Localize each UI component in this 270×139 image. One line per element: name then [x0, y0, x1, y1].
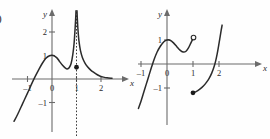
x-axis-label: x — [262, 63, 267, 73]
x-tick-label: 1 — [191, 68, 195, 78]
graph-panel-left: xy–1012–112 — [0, 0, 135, 139]
curve-branch-right — [193, 25, 222, 93]
curve-branch-right — [77, 11, 112, 78]
graph-panel-right: xy–1012–11 — [135, 0, 270, 139]
graph-left-svg: xy–1012–112 — [0, 0, 135, 139]
x-tick-label: 2 — [217, 68, 221, 78]
y-axis-arrow — [164, 9, 170, 16]
x-axis-label: x — [129, 78, 134, 88]
y-axis-label: y — [42, 9, 47, 19]
open-point — [191, 35, 196, 40]
x-tick-label: 0 — [50, 83, 54, 93]
x-axis-arrow — [255, 61, 262, 67]
math-figure: ) xy–1012–112 xy–1012–11 — [0, 0, 270, 139]
x-axis-arrow — [122, 76, 129, 82]
y-axis-label: y — [157, 9, 162, 19]
y-tick-label: 2 — [43, 27, 47, 37]
filled-point — [191, 90, 196, 95]
x-tick-label: 2 — [99, 83, 103, 93]
y-tick-label: –1 — [38, 98, 48, 108]
y-axis-arrow — [49, 9, 55, 16]
x-tick-label: 0 — [165, 68, 169, 78]
filled-point — [74, 65, 79, 70]
graph-right-svg: xy–1012–11 — [135, 0, 270, 139]
y-tick-label: –1 — [153, 83, 163, 93]
x-tick-label: –1 — [136, 68, 146, 78]
